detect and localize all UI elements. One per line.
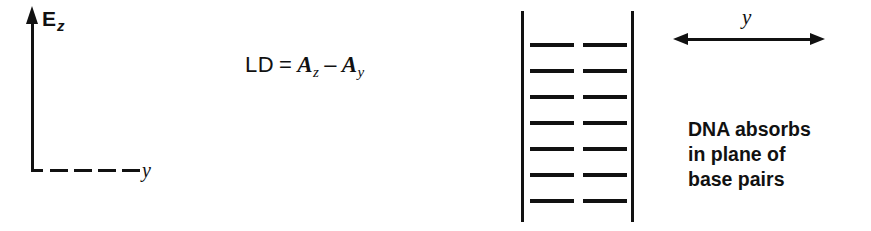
dna-base-pair-rung (530, 121, 574, 125)
dna-base-pair-rung (583, 69, 627, 73)
caption-line-1: DNA absorbs (688, 117, 811, 142)
dna-backbone-left (521, 11, 524, 222)
dna-caption: DNA absorbs in plane of base pairs (688, 117, 811, 192)
dna-ladder-diagram (0, 0, 871, 231)
caption-line-3: base pairs (688, 167, 811, 192)
direction-arrow-label: y (742, 7, 751, 28)
dna-base-pair-rung (530, 43, 574, 47)
direction-arrow-shaft (684, 38, 818, 41)
dna-base-pair-rung (530, 199, 574, 203)
dna-base-pair-rung (530, 173, 574, 177)
linear-dichroism-figure: Ez y LD=Az–Ay y DNA absorbs in plane of … (0, 0, 871, 231)
dna-base-pair-rung (530, 95, 574, 99)
arrow-head-right-icon (810, 33, 825, 45)
dna-base-pair-rung (583, 95, 627, 99)
dna-base-pair-rung (583, 173, 627, 177)
dna-base-pair-rung (583, 199, 627, 203)
dna-base-pair-rung (530, 147, 574, 151)
dna-backbone-right (631, 11, 634, 222)
dna-base-pair-rung (583, 121, 627, 125)
dna-base-pair-rung (530, 69, 574, 73)
dna-base-pair-rung (583, 43, 627, 47)
caption-line-2: in plane of (688, 142, 811, 167)
dna-base-pair-rung (583, 147, 627, 151)
